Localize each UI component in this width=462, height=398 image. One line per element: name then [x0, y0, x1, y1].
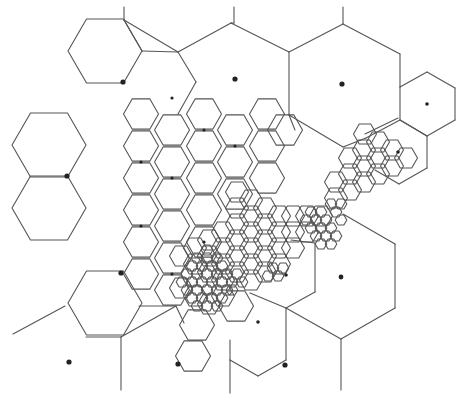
hexagon-cells — [12, 19, 418, 371]
irregular-cell-edges — [13, 7, 455, 393]
hex-cell-small — [170, 246, 193, 266]
hex-cell-medium — [187, 195, 222, 225]
cell-edge — [427, 120, 455, 136]
hex-cell-small — [325, 172, 348, 192]
cell-edge — [400, 120, 427, 136]
hex-cell-small — [339, 180, 362, 200]
hex-cell-medium — [124, 99, 159, 129]
cell-edge — [178, 82, 196, 114]
cell-edge — [124, 20, 142, 51]
cell-edge — [375, 170, 399, 184]
hex-cell-small — [353, 156, 376, 176]
hex-cell-medium — [155, 115, 190, 145]
cell-edge — [399, 168, 427, 184]
site-dot — [170, 272, 173, 275]
hex-cell-medium — [187, 99, 222, 129]
hex-cell-medium — [250, 163, 285, 193]
hex-cell-medium — [218, 147, 253, 177]
hex-cell-medium — [155, 211, 190, 241]
cell-edge — [178, 23, 231, 52]
cell-edge — [286, 308, 341, 339]
hex-cell-small — [240, 254, 263, 274]
hex-cell-medium — [124, 163, 159, 193]
hex-cell-medium — [124, 259, 159, 289]
hex-cell-small — [381, 140, 404, 160]
site-dot — [339, 275, 344, 280]
site-dot — [202, 128, 205, 131]
hex-cell-small — [367, 148, 390, 168]
cell-edge — [176, 306, 184, 323]
hex-cell-large — [12, 113, 86, 177]
hex-cell-medium — [155, 179, 190, 209]
cell-edge — [142, 51, 178, 52]
hex-cell-large — [68, 271, 142, 335]
hex-cell-small — [353, 172, 376, 192]
hex-cell-medium — [250, 131, 285, 161]
site-dot — [139, 160, 142, 163]
site-dot — [120, 79, 125, 84]
cell-edge — [178, 52, 196, 82]
hex-cell-small — [198, 230, 221, 250]
site-dot — [425, 102, 429, 106]
hex-cell-small — [240, 238, 263, 258]
cell-edge — [230, 360, 258, 376]
hex-cell-small — [212, 222, 235, 242]
cell-edge — [250, 293, 286, 308]
hex-cell-small — [254, 198, 277, 218]
hex-cell-small — [240, 222, 263, 242]
hex-cell-large — [12, 176, 86, 240]
hex-cell-medium — [218, 115, 253, 145]
site-dot — [284, 273, 288, 277]
hex-cell-small — [268, 238, 291, 258]
site-dot — [170, 96, 173, 99]
cell-edge — [289, 115, 343, 147]
cell-edge — [366, 120, 400, 138]
cell-edge — [231, 23, 289, 52]
site-dot — [202, 240, 205, 243]
site-dot — [256, 320, 260, 324]
site-dot — [339, 81, 344, 86]
hex-cell-small — [226, 230, 249, 250]
site-dot — [64, 173, 69, 178]
site-dot — [66, 359, 71, 364]
cell-edge — [286, 292, 315, 308]
cell-edge — [13, 306, 65, 334]
hex-cell-medium — [176, 341, 211, 371]
hex-cell-small — [226, 214, 249, 234]
hex-cell-large — [68, 19, 142, 83]
site-dot — [139, 224, 142, 227]
hex-cell-medium — [250, 99, 285, 129]
hex-cell-small — [254, 230, 277, 250]
hex-cell-small — [254, 214, 277, 234]
site-dot — [175, 361, 180, 366]
hex-cell-small — [381, 156, 404, 176]
hex-cell-small — [353, 140, 376, 160]
hex-cell-small — [226, 182, 249, 202]
hex-cell-small — [339, 164, 362, 184]
cell-edge — [343, 214, 395, 244]
cell-edge — [258, 360, 286, 376]
hex-cell-small — [339, 148, 362, 168]
hex-cell-medium — [187, 163, 222, 193]
cell-edge — [427, 72, 455, 88]
cell-edge — [124, 20, 178, 52]
site-dot — [282, 362, 287, 367]
site-dot — [118, 270, 123, 275]
hex-cell-small — [212, 238, 235, 258]
site-dot — [232, 76, 237, 81]
hex-cell-medium — [187, 131, 222, 161]
hex-cell-small — [240, 190, 263, 210]
site-dot — [396, 150, 400, 154]
hex-cell-small — [367, 164, 390, 184]
hex-cell-small — [240, 206, 263, 226]
mesh-canvas — [0, 0, 462, 398]
cell-edge — [289, 24, 343, 52]
hex-cell-medium — [124, 131, 159, 161]
hex-cell-medium — [155, 147, 190, 177]
hex-cell-medium — [124, 195, 159, 225]
cell-edge — [121, 306, 176, 337]
hex-cell-small — [226, 246, 249, 266]
hex-cell-small — [367, 132, 390, 152]
hex-cell-medium — [124, 227, 159, 257]
cell-edge — [341, 308, 395, 339]
